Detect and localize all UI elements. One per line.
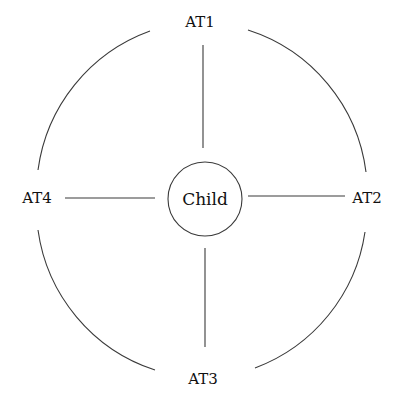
arc-at1-at4	[38, 31, 150, 170]
node-label-at2: AT2	[351, 189, 382, 207]
child-relations-diagram: Child AT1 AT2 AT3 AT4	[0, 0, 399, 402]
arc-at2-at3	[255, 232, 365, 368]
child-node-label: Child	[182, 189, 228, 209]
arc-at1-at2	[248, 30, 366, 172]
node-label-at4: AT4	[21, 189, 52, 207]
arc-at4-at3	[38, 230, 155, 370]
node-label-at3: AT3	[187, 370, 218, 388]
node-label-at1: AT1	[184, 13, 215, 31]
